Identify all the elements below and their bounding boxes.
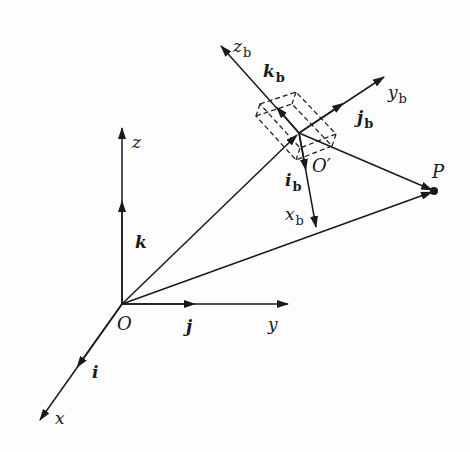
label-yb: yb	[387, 82, 407, 106]
i-unit-vector	[80, 304, 122, 363]
rigid-body-dashed	[256, 92, 336, 160]
vector-O-to-Oprime	[122, 135, 297, 304]
label-k: k	[135, 232, 147, 252]
label-ib: ib	[285, 170, 302, 194]
label-kb: kb	[263, 61, 285, 85]
label-i: i	[92, 362, 98, 382]
vector-O-to-P	[122, 192, 432, 304]
label-zb: zb	[232, 36, 251, 60]
label-z: z	[131, 132, 142, 152]
label-xb: xb	[285, 204, 304, 228]
jb-unit-vector	[299, 106, 339, 133]
label-y: y	[267, 314, 278, 334]
point-P	[430, 187, 438, 195]
kb-unit-vector	[280, 111, 299, 133]
label-j: j	[183, 316, 193, 336]
label-origin-O: O	[117, 313, 132, 334]
label-x: x	[55, 408, 65, 428]
label-P: P	[431, 161, 445, 182]
label-origin-Oprime: O′	[312, 155, 331, 176]
label-jb: jb	[354, 107, 373, 131]
coordinate-frame-diagram: O z k y j x i O′ P zb kb yb jb xb ib	[0, 0, 470, 452]
